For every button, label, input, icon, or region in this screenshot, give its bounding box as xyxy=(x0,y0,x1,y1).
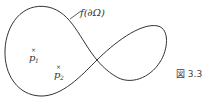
figure-caption: 図 3.3 xyxy=(176,69,202,79)
point-2-subscript: 2 xyxy=(59,74,64,81)
figure-canvas: f(∂Ω) × p 1 × p 2 図 3.3 xyxy=(0,0,213,100)
curve-label: f(∂Ω) xyxy=(79,7,105,18)
point-1-subscript: 1 xyxy=(35,57,39,64)
